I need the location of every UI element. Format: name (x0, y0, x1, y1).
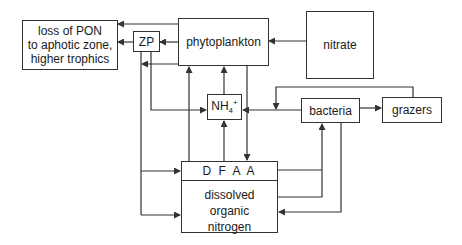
dfaa-header: D F A A (182, 162, 277, 181)
dissolved-organic-nitrogen-label: dissolved organic nitrogen (182, 181, 277, 235)
bacteria-box: bacteria (301, 98, 360, 123)
zp-label: ZP (139, 35, 154, 49)
phytoplankton-label: phytoplankton (186, 35, 261, 49)
bacteria-label: bacteria (309, 104, 352, 118)
zp-box: ZP (133, 31, 160, 52)
dissolved-organic-nitrogen-box: D F A A dissolved organic nitrogen (181, 161, 278, 233)
nitrate-label: nitrate (323, 38, 356, 52)
phytoplankton-box: phytoplankton (178, 18, 269, 66)
nh4-box: NH4+ (207, 94, 242, 120)
nitrate-box: nitrate (306, 11, 374, 79)
loss-of-pon-box: loss of PON to aphotic zone, higher trop… (22, 20, 118, 70)
edge-bacteria-to-dom (279, 123, 341, 212)
loss-of-pon-label: loss of PON to aphotic zone, higher trop… (28, 24, 113, 66)
grazers-box: grazers (382, 97, 442, 123)
grazers-label: grazers (392, 103, 432, 117)
nh4-label: NH4+ (211, 96, 237, 118)
edge-dom-to-bacteria-2 (278, 124, 322, 197)
